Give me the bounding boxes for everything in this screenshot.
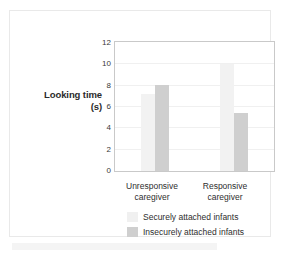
- x-tick-responsive-line1: Responsive: [187, 181, 263, 192]
- x-tick-responsive-line2: caregiver: [187, 192, 263, 203]
- y-tick-12: 12: [94, 39, 111, 47]
- plot-wrapper: 12 10 8 6 4 2 0: [94, 39, 276, 179]
- x-tick-unresponsive-line1: Unresponsive: [114, 181, 190, 192]
- y-tick-6: 6: [94, 103, 111, 111]
- y-axis-tick-labels: 12 10 8 6 4 2 0: [94, 39, 111, 174]
- bars-layer: [115, 42, 274, 171]
- legend-swatch-insecure-icon: [127, 227, 138, 237]
- figure-card: Looking time (s) 12 10 8 6 4 2 0: [9, 10, 271, 237]
- plot-area: [114, 41, 275, 172]
- y-tick-10: 10: [94, 60, 111, 68]
- legend-label-insecure: Insecurely attached infants: [143, 227, 244, 237]
- bar-unresponsive-insecure: [155, 85, 169, 171]
- legend-swatch-secure-icon: [127, 212, 138, 222]
- bar-responsive-insecure: [234, 113, 248, 171]
- y-tick-4: 4: [94, 124, 111, 132]
- y-tick-0: 0: [94, 167, 111, 175]
- y-tick-8: 8: [94, 82, 111, 90]
- y-tick-2: 2: [94, 146, 111, 154]
- bar-unresponsive-secure: [141, 94, 155, 171]
- legend-label-secure: Securely attached infants: [143, 212, 238, 222]
- x-tick-responsive: Responsive caregiver: [187, 181, 263, 203]
- page-bottom-strip: [12, 243, 217, 250]
- legend-item-secure: Securely attached infants: [127, 210, 277, 223]
- y-axis-title: Looking time (s): [24, 89, 102, 112]
- figure-page: Looking time (s) 12 10 8 6 4 2 0: [0, 0, 281, 255]
- x-tick-unresponsive: Unresponsive caregiver: [114, 181, 190, 203]
- x-axis-tick-labels: Unresponsive caregiver Responsive caregi…: [114, 181, 276, 207]
- x-tick-unresponsive-line2: caregiver: [114, 192, 190, 203]
- bar-responsive-secure: [220, 64, 234, 172]
- legend-item-insecure: Insecurely attached infants: [127, 225, 277, 238]
- chart-legend: Securely attached infants Insecurely att…: [127, 210, 277, 240]
